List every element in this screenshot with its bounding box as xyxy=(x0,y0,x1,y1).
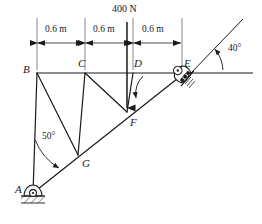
diagram-canvas xyxy=(0,0,262,224)
load-label: 400 N xyxy=(112,4,137,14)
truss-members xyxy=(33,73,182,193)
joint-label-G: G xyxy=(82,158,90,169)
dimension-label-1: 0.6 m xyxy=(45,25,67,35)
joint-label-A: A xyxy=(15,184,22,195)
joint-label-D: D xyxy=(134,58,142,69)
member-CG xyxy=(78,73,85,155)
member-CF xyxy=(85,73,127,112)
joint-label-C: C xyxy=(78,58,85,69)
joint-label-F: F xyxy=(130,117,137,128)
angle-reference-40 xyxy=(187,19,253,73)
joint-label-B: B xyxy=(23,64,30,75)
angle-label-40: 40° xyxy=(228,44,241,54)
member-BG xyxy=(37,73,78,155)
truss-diagram: 400 N 0.6 m 0.6 m 0.6 m B C D E F G A 50… xyxy=(0,0,262,224)
member-AE xyxy=(33,75,182,193)
pin-support-at-A xyxy=(21,185,45,203)
joint-label-E: E xyxy=(184,58,191,69)
angle-label-50: 50° xyxy=(42,132,55,142)
member-AB xyxy=(33,73,37,193)
dimension-label-2: 0.6 m xyxy=(93,25,115,35)
angle-arc-50 xyxy=(35,140,59,168)
incline-pointer-arrow xyxy=(136,76,143,98)
member-DF xyxy=(127,73,133,112)
dimension-label-3: 0.6 m xyxy=(142,25,164,35)
